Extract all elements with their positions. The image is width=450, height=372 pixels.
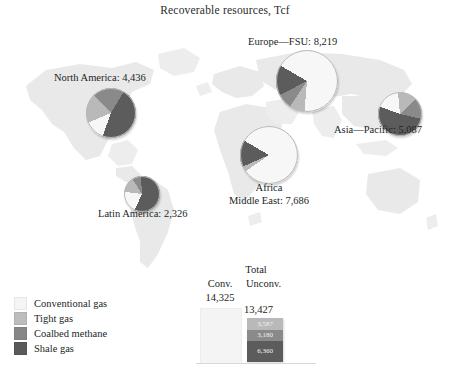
legend-label-conventional-gas: Conventional gas	[34, 298, 107, 309]
totals-unconv-value: 13,427	[244, 304, 304, 315]
pie-latin-america	[124, 176, 160, 212]
legend: Conventional gas Tight gas Coalbed metha…	[14, 296, 107, 356]
legend-swatch-conventional-gas	[14, 297, 27, 310]
label-latin-america: Latin America: 2,326	[98, 208, 188, 221]
totals-heading: Total	[196, 264, 316, 275]
label-europe-fsu: Europe—FSU: 8,219	[248, 36, 337, 49]
legend-label-shale-gas: Shale gas	[34, 343, 74, 354]
pie-europe-fsu	[276, 50, 338, 112]
totals-conv-value: 14,325	[192, 292, 248, 303]
pie-north-america	[86, 88, 136, 138]
label-north-america: North America: 4,436	[54, 72, 146, 85]
pie-africa-middle-east	[240, 126, 298, 184]
legend-label-tight-gas: Tight gas	[34, 313, 73, 324]
totals-conv-label: Conv.	[196, 278, 244, 289]
legend-item-shale-gas: Shale gas	[14, 341, 107, 356]
totals-unconv-label: Unconv.	[246, 278, 316, 289]
legend-item-tight-gas: Tight gas	[14, 311, 107, 326]
bar-segment-tight-gas: 3,587	[247, 318, 283, 330]
bar-segment-shale-gas: 6,360	[247, 341, 283, 362]
bar-unconventional: 3,587 3,180 6,360	[247, 318, 283, 362]
legend-item-coalbed-methane: Coalbed methane	[14, 326, 107, 341]
label-africa-line2: Middle East: 7,686	[210, 195, 328, 208]
legend-item-conventional-gas: Conventional gas	[14, 296, 107, 311]
legend-swatch-coalbed-methane	[14, 327, 27, 340]
chart-title: Recoverable resources, Tcf	[0, 4, 450, 16]
bar-conventional	[200, 308, 242, 364]
bar-segment-coalbed-methane: 3,180	[247, 330, 283, 341]
label-africa-line1: Africa	[210, 182, 328, 195]
legend-swatch-tight-gas	[14, 312, 27, 325]
chart-canvas: Recoverable resources, Tcf	[0, 0, 450, 372]
totals-baseline	[196, 363, 316, 364]
label-asia-pacific: Asia—Pacific: 5,087	[334, 124, 422, 137]
legend-swatch-shale-gas	[14, 342, 27, 355]
legend-label-coalbed-methane: Coalbed methane	[34, 328, 107, 339]
label-africa-middle-east: Africa Middle East: 7,686	[210, 182, 328, 207]
